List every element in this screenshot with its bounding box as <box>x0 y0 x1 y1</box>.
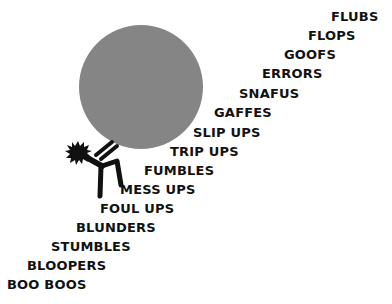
stair-word: GAFFES <box>214 106 272 119</box>
stair-word: SNAFUS <box>239 87 299 100</box>
stick-figure-icon <box>65 141 121 196</box>
stair-word: STUMBLES <box>51 240 131 253</box>
stair-word: GOOFS <box>284 48 336 61</box>
boulder-circle <box>79 25 203 149</box>
stair-word: BOO BOOS <box>7 278 87 291</box>
stair-word: BLUNDERS <box>76 221 156 234</box>
stair-word: FOUL UPS <box>100 202 174 215</box>
stair-word: FLOPS <box>308 29 356 42</box>
stair-word: MESS UPS <box>120 183 196 196</box>
stair-word: BLOOPERS <box>27 259 106 272</box>
stair-word: SLIP UPS <box>193 126 261 139</box>
stair-word: FUMBLES <box>144 164 214 177</box>
stair-word: FLUBS <box>331 10 379 23</box>
stair-word: ERRORS <box>262 67 323 80</box>
stair-word: TRIP UPS <box>170 145 239 158</box>
